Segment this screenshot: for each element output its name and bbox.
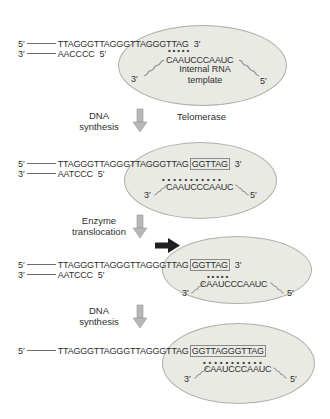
bottom-strand-2: 3′AATCCC5′ <box>18 170 105 179</box>
top-strand-2: 5′TTAGGGTTAGGGTTAGGGTTAGGGTTAG3′ <box>18 160 241 169</box>
step3-label-line1: DNA <box>56 306 142 316</box>
rna-five-prime-label: 5′ <box>290 375 297 384</box>
five-prime-label: 5′ <box>98 169 105 179</box>
three-prime-label: 3′ <box>235 260 242 270</box>
new-telomere-repeat-box: GGTTAG <box>190 259 230 271</box>
strand-leader-line <box>27 264 56 265</box>
three-prime-label: 3′ <box>18 49 25 59</box>
step3-label-line2: synthesis <box>56 317 142 327</box>
dna-sequence: AACCCC <box>58 49 95 59</box>
dna-sequence: TTAGGGTTAGGGTTAGGGTTAG <box>58 260 189 270</box>
dna-sequence: TTAGGGTTAGGGTTAGGGTTAG <box>58 159 189 169</box>
five-prime-label: 5′ <box>18 39 25 49</box>
five-prime-label: 5′ <box>18 159 25 169</box>
rna-three-prime-label: 3′ <box>144 191 151 200</box>
rna-connector-squiggle <box>234 184 250 196</box>
strand-leader-line <box>27 53 56 54</box>
bottom-strand-3: 3′AATCCC5′ <box>18 271 105 280</box>
top-strand-4: 5′TTAGGGTTAGGGTTAGGGTTAGGGTTAGGGTTAG <box>18 347 266 356</box>
three-prime-label: 3′ <box>194 39 201 49</box>
step1-label-line2: synthesis <box>56 122 142 132</box>
five-prime-label: 5′ <box>18 260 25 270</box>
strand-leader-line <box>27 274 56 275</box>
rna-three-prime-label: 3′ <box>131 75 138 84</box>
rna-connector-squiggle <box>272 367 288 379</box>
strand-leader-line <box>27 350 56 351</box>
step2-label-line1: Enzyme <box>56 216 142 226</box>
rna-five-prime-label: 5′ <box>287 289 294 298</box>
rna-five-prime-label: 5′ <box>260 77 267 86</box>
rna-five-prime-label: 5′ <box>250 191 257 200</box>
telomerase-diagram: 5′TTAGGGTTAGGGTTAGGGTTAG3′ 3′AACCCC5′ ••… <box>0 0 330 419</box>
rna-three-prime-label: 3′ <box>182 289 189 298</box>
five-prime-label: 5′ <box>18 346 25 356</box>
base-pairing-dots: ••••• <box>168 47 191 55</box>
step2-label-line2: translocation <box>56 227 142 237</box>
new-telomere-repeat-box: GGTTAG <box>190 158 230 170</box>
dna-sequence: AATCCC <box>58 169 93 179</box>
five-prime-label: 5′ <box>100 49 107 59</box>
rna-template-sequence: CAAUCCCAAUC <box>204 365 271 374</box>
three-prime-label: 3′ <box>235 159 242 169</box>
top-strand-3: 5′TTAGGGTTAGGGTTAGGGTTAGGGTTAG3′ <box>18 261 241 270</box>
dna-sequence: TTAGGGTTAGGGTTAGGGTTAG <box>58 346 189 356</box>
translocation-right-arrow-icon <box>155 238 180 253</box>
three-prime-label: 3′ <box>18 270 25 280</box>
bottom-strand-1: 3′AACCCC5′ <box>18 50 106 59</box>
rna-template-sequence: CAAUCCCAAUC <box>166 183 233 192</box>
dna-sequence: AATCCC <box>58 270 93 280</box>
rna-connector-squiggle <box>269 282 285 294</box>
internal-rna-template-label-line1: Internal RNA <box>169 64 241 74</box>
new-telomere-repeat-box: GGTTAGGGTTAG <box>190 345 266 357</box>
step1-label-line1: DNA <box>56 111 142 121</box>
strand-leader-line <box>27 173 56 174</box>
rna-template-sequence: CAAUCCCAAUC <box>200 280 267 289</box>
five-prime-label: 5′ <box>98 270 105 280</box>
strand-leader-line <box>27 43 56 44</box>
three-prime-label: 3′ <box>18 169 25 179</box>
strand-leader-line <box>27 163 56 164</box>
rna-three-prime-label: 3′ <box>184 375 191 384</box>
rna-connector-squiggle <box>142 59 166 77</box>
internal-rna-template-label-line2: template <box>169 75 241 85</box>
telomerase-label: Telomerase <box>177 112 226 122</box>
